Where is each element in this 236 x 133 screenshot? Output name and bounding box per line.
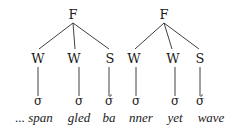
stressed-syllable-node: σ́: [196, 94, 204, 108]
foot-1: F W W S σ σ σ́ ... span gled ba: [15, 7, 116, 125]
syllable-node: σ: [132, 94, 140, 108]
word-segment: nner: [129, 110, 154, 125]
stressed-syllable-node: σ́: [105, 94, 113, 108]
branch-edge: [135, 23, 164, 49]
strong-node: S: [106, 51, 115, 66]
word-segment: ba: [103, 110, 117, 125]
foot-2: F W W S σ σ σ́ nner yet wave: [127, 7, 224, 125]
branch-edge: [164, 23, 172, 49]
foot-label: F: [159, 7, 168, 22]
branch-edge: [39, 23, 73, 49]
weak-node: W: [31, 51, 45, 66]
weak-node: W: [67, 51, 81, 66]
branch-edge: [73, 23, 109, 49]
syllable-node: σ: [171, 94, 179, 108]
syllable-node: σ: [75, 94, 83, 108]
foot-label: F: [68, 7, 77, 22]
metrical-tree-diagram: F W W S σ σ σ́ ... span gled ba F W W S …: [0, 0, 236, 133]
word-segment: gled: [68, 110, 91, 125]
branch-edge: [73, 23, 75, 49]
word-segment: ... span: [15, 110, 53, 125]
weak-node: W: [127, 51, 141, 66]
strong-node: S: [196, 51, 205, 66]
branch-edge: [164, 23, 199, 49]
word-segment: yet: [165, 110, 183, 125]
word-segment: wave: [198, 110, 225, 125]
syllable-node: σ: [34, 94, 42, 108]
weak-node: W: [166, 51, 180, 66]
